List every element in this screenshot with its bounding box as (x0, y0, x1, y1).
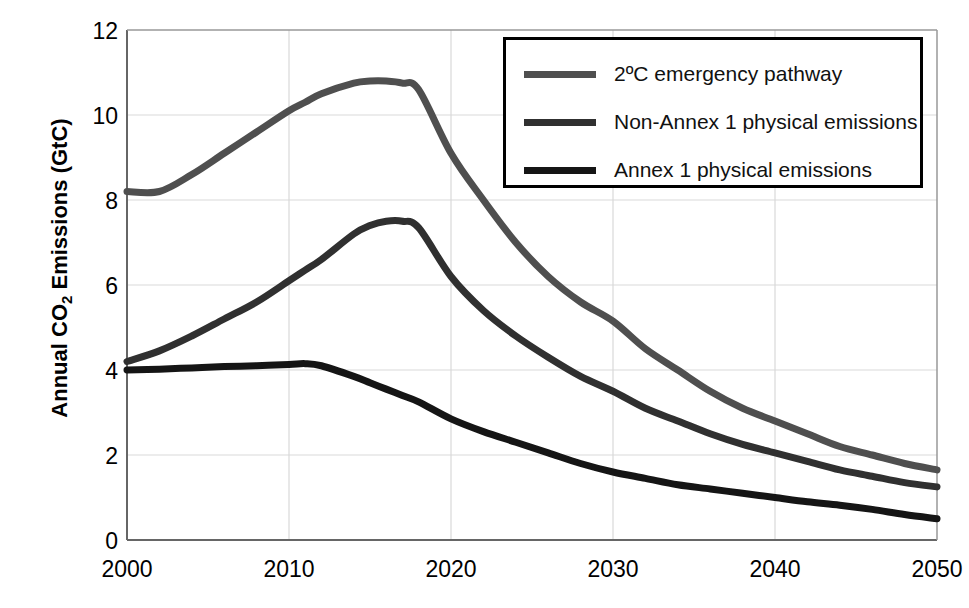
legend-label-pathway: 2ºC emergency pathway (614, 62, 842, 86)
legend-swatch-annex (524, 167, 596, 174)
legend-item-2: Annex 1 physical emissions (506, 150, 920, 190)
chart-container: Annual CO2 Emissions (GtC) 12 10 8 6 4 2… (0, 0, 969, 608)
legend: 2ºC emergency pathway Non-Annex 1 physic… (503, 37, 923, 188)
legend-label-non-annex: Non-Annex 1 physical emissions (614, 110, 917, 134)
legend-swatch-pathway (524, 71, 596, 78)
legend-item-1: Non-Annex 1 physical emissions (506, 102, 920, 142)
legend-label-annex: Annex 1 physical emissions (614, 158, 872, 182)
legend-swatch-non-annex (524, 119, 596, 126)
series-line-2 (127, 364, 937, 519)
legend-item-0: 2ºC emergency pathway (506, 54, 920, 94)
